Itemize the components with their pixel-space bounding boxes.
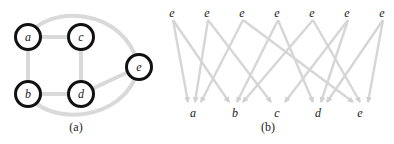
node-d-label: d (78, 87, 85, 101)
node-a: a (16, 25, 41, 50)
caption-b: (b) (261, 120, 275, 134)
top-node-e1: e (169, 6, 175, 20)
node-e: e (127, 55, 152, 80)
node-b: b (16, 82, 41, 107)
top-node-e3: e (239, 6, 245, 20)
top-node-labels: e e e e e e e (169, 6, 385, 20)
bottom-node-d: d (315, 106, 322, 120)
top-node-e2: e (204, 6, 210, 20)
top-node-e6: e (344, 6, 350, 20)
node-c: c (69, 25, 94, 50)
bottom-node-c: c (274, 106, 280, 120)
bottom-node-labels: a b c d e (190, 106, 363, 120)
bottom-node-a: a (190, 106, 196, 120)
top-node-e4: e (274, 6, 280, 20)
graph-a: a c b d e (a) (16, 16, 152, 134)
node-e-label: e (136, 60, 142, 74)
caption-a: (a) (69, 120, 82, 134)
graph-b-arrows (173, 20, 383, 102)
top-node-e5: e (309, 6, 315, 20)
arrow-e2-c (208, 20, 271, 102)
bottom-node-e: e (357, 106, 363, 120)
bottom-node-b: b (232, 106, 238, 120)
figure-canvas: a c b d e (a) (0, 0, 394, 144)
graph-b: e e e e e e e a b c d e (b) (169, 6, 385, 134)
top-node-e7: e (379, 6, 385, 20)
node-b-label: b (25, 87, 31, 101)
node-d: d (69, 82, 94, 107)
node-c-label: c (78, 30, 84, 44)
arrow-e5-b (243, 20, 313, 102)
node-a-label: a (25, 30, 31, 44)
